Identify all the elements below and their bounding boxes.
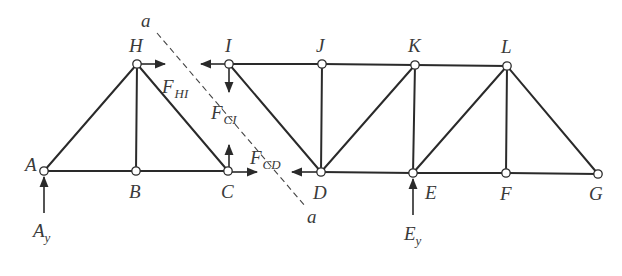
- label-F: F: [499, 183, 512, 204]
- truss-diagram: a a A B C D E: [0, 0, 622, 276]
- member-KE: [413, 65, 415, 173]
- label-J: J: [316, 35, 326, 56]
- joint-L: [503, 62, 511, 70]
- section-label-top: a: [141, 10, 151, 31]
- force-labels: FHI FCI FCD Ay Ey: [31, 76, 422, 248]
- member-LG: [507, 66, 598, 174]
- label-F_CI: FCI: [210, 102, 237, 127]
- joint-G: [594, 170, 602, 178]
- joint-E: [409, 169, 417, 177]
- joint-K: [411, 61, 419, 69]
- joint-labels: A B C D E F G H I J K L: [23, 35, 603, 204]
- member-JD: [321, 64, 322, 172]
- joint-A: [40, 167, 48, 175]
- member-EL: [413, 66, 507, 173]
- label-A: A: [23, 154, 37, 175]
- section-label-bottom: a: [307, 206, 317, 227]
- joint-C: [224, 167, 232, 175]
- joint-B: [132, 167, 140, 175]
- joint-H: [133, 60, 141, 68]
- label-E_y: Ey: [403, 223, 422, 248]
- label-C: C: [221, 181, 234, 202]
- truss-members: [44, 64, 598, 174]
- label-F_CD: FCD: [249, 147, 281, 172]
- joint-D: [317, 168, 325, 176]
- member-HB: [136, 64, 137, 171]
- label-G: G: [589, 183, 603, 204]
- label-H: H: [128, 35, 144, 56]
- joint-J: [318, 60, 326, 68]
- label-A_y: Ay: [31, 220, 51, 245]
- member-ID: [229, 64, 321, 172]
- label-I: I: [224, 35, 233, 56]
- label-B: B: [129, 181, 141, 202]
- joint-F: [502, 169, 510, 177]
- member-FG: [506, 173, 598, 174]
- member-DK: [321, 65, 415, 172]
- joint-I: [225, 60, 233, 68]
- label-E: E: [424, 182, 437, 203]
- label-L: L: [500, 36, 512, 57]
- member-DE: [321, 172, 413, 173]
- member-AH: [44, 64, 137, 171]
- member-JK: [322, 64, 415, 65]
- label-D: D: [312, 182, 327, 203]
- member-LF: [506, 66, 507, 173]
- member-KL: [415, 65, 507, 66]
- label-K: K: [407, 35, 422, 56]
